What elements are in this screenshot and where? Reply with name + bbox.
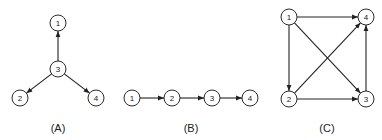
node-b-1: 1 bbox=[124, 90, 140, 106]
node-a-1: 1 bbox=[50, 15, 66, 31]
node-label: 1 bbox=[56, 19, 61, 28]
node-label: 1 bbox=[130, 94, 135, 103]
node-c-2: 2 bbox=[281, 91, 297, 107]
node-b-2: 2 bbox=[164, 90, 180, 106]
node-label: 2 bbox=[287, 95, 292, 104]
node-label: 3 bbox=[364, 95, 369, 104]
node-label: 1 bbox=[287, 13, 292, 22]
graph-caption-c: (C) bbox=[319, 122, 334, 134]
graph-caption-a: (A) bbox=[51, 122, 66, 134]
node-a-3: 3 bbox=[50, 61, 66, 77]
node-label: 4 bbox=[364, 13, 369, 22]
node-a-2: 2 bbox=[12, 90, 28, 106]
edge-a-3-to-2 bbox=[26, 74, 51, 93]
graph-c: 1423(C) bbox=[281, 9, 374, 134]
graph-b: 1234(B) bbox=[124, 90, 258, 134]
node-label: 3 bbox=[210, 94, 215, 103]
node-a-4: 4 bbox=[88, 90, 104, 106]
node-b-4: 4 bbox=[242, 90, 258, 106]
node-c-4: 4 bbox=[358, 9, 374, 25]
node-c-1: 1 bbox=[281, 9, 297, 25]
node-label: 2 bbox=[18, 94, 23, 103]
node-b-3: 3 bbox=[204, 90, 220, 106]
graph-caption-b: (B) bbox=[184, 122, 199, 134]
graph-a: 1324(A) bbox=[12, 15, 104, 134]
node-label: 4 bbox=[248, 94, 253, 103]
edge-a-3-to-4 bbox=[64, 74, 89, 93]
directed-graphs-figure: 1324(A) 1234(B) 1423(C) bbox=[0, 0, 382, 140]
node-label: 2 bbox=[170, 94, 175, 103]
node-label: 3 bbox=[56, 65, 61, 74]
node-c-3: 3 bbox=[358, 91, 374, 107]
node-label: 4 bbox=[94, 94, 99, 103]
